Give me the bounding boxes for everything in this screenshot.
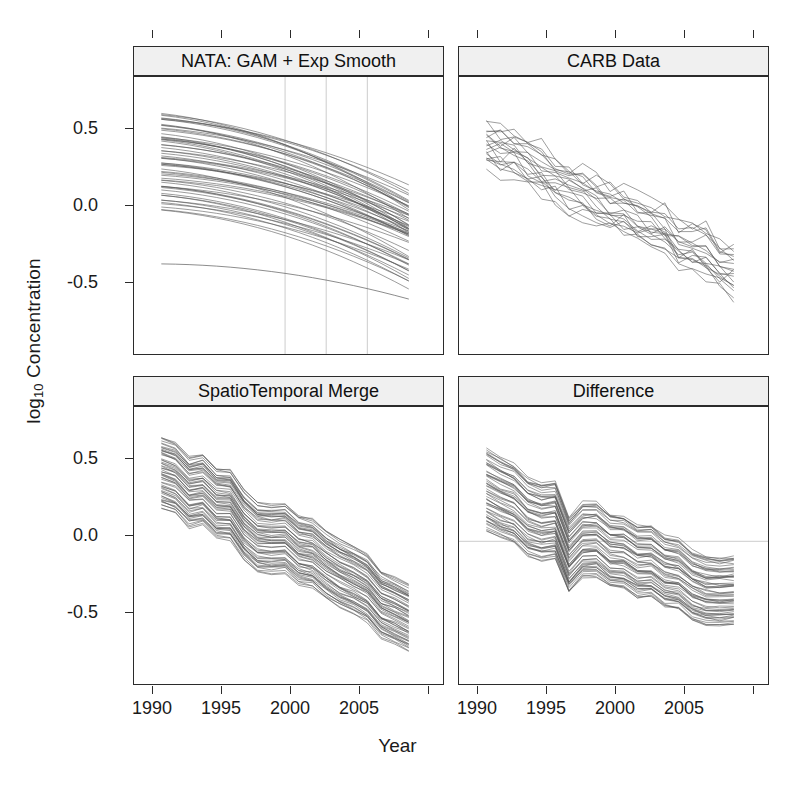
strip-label-merge: SpatioTemporal Merge (198, 381, 379, 402)
strip-label-carb: CARB Data (567, 51, 660, 72)
x-tick-mark-toprow-left-3 (359, 30, 360, 38)
y-tick-label-top-2: -0.5 (38, 272, 98, 293)
y-tick-label-bottom-2: -0.5 (38, 602, 98, 623)
x-tick-mark-bottomrow-right-4 (753, 686, 754, 694)
x-tick-mark-toprow-left-0 (152, 30, 153, 38)
panel-carb (458, 76, 769, 355)
x-tick-mark-bottomrow-left-4 (428, 686, 429, 694)
y-axis-title: log10 Concentration (23, 211, 45, 471)
strip-label-nata: NATA: GAM + Exp Smooth (181, 51, 396, 72)
strip-header-merge: SpatioTemporal Merge (133, 376, 444, 406)
x-tick-label-left-1: 1995 (186, 698, 256, 719)
x-axis-title: Year (0, 735, 795, 757)
panel-merge-plot-area (134, 407, 443, 684)
x-tick-label-right-3: 2005 (649, 698, 719, 719)
x-tick-mark-bottomrow-right-2 (615, 686, 616, 694)
panel-nata-plot-area (134, 77, 443, 354)
x-tick-mark-toprow-right-3 (684, 30, 685, 38)
x-tick-mark-toprow-left-2 (290, 30, 291, 38)
strip-header-nata: NATA: GAM + Exp Smooth (133, 46, 444, 76)
x-tick-mark-toprow-right-4 (753, 30, 754, 38)
x-tick-mark-bottomrow-left-3 (359, 686, 360, 694)
x-tick-mark-toprow-right-2 (615, 30, 616, 38)
y-tick-label-top-0: 0.5 (38, 118, 98, 139)
y-tick-mark-top-1 (125, 205, 133, 206)
x-tick-mark-bottomrow-right-0 (477, 686, 478, 694)
x-tick-label-right-1: 1995 (511, 698, 581, 719)
x-tick-mark-bottomrow-left-0 (152, 686, 153, 694)
x-tick-mark-bottomrow-right-3 (684, 686, 685, 694)
figure-panel-plot: log10 Concentration Year 0.5 0.0 -0.5 0.… (0, 0, 795, 791)
panel-difference (458, 406, 769, 685)
y-tick-mark-bottom-2 (125, 612, 133, 613)
x-tick-label-left-0: 1990 (117, 698, 187, 719)
y-tick-mark-bottom-0 (125, 458, 133, 459)
x-tick-label-left-3: 2005 (324, 698, 394, 719)
y-tick-label-top-1: 0.0 (38, 195, 98, 216)
x-tick-mark-toprow-right-1 (546, 30, 547, 38)
x-tick-label-left-2: 2000 (255, 698, 325, 719)
panel-carb-plot-area (459, 77, 768, 354)
x-tick-label-right-2: 2000 (580, 698, 650, 719)
x-tick-label-right-0: 1990 (442, 698, 512, 719)
panel-merge (133, 406, 444, 685)
x-tick-mark-bottomrow-left-2 (290, 686, 291, 694)
y-tick-mark-top-2 (125, 282, 133, 283)
x-tick-mark-bottomrow-left-1 (221, 686, 222, 694)
y-tick-label-bottom-0: 0.5 (38, 448, 98, 469)
x-tick-mark-toprow-right-0 (477, 30, 478, 38)
y-tick-mark-top-0 (125, 128, 133, 129)
y-tick-mark-bottom-1 (125, 535, 133, 536)
strip-label-difference: Difference (573, 381, 655, 402)
panel-nata (133, 76, 444, 355)
x-tick-mark-bottomrow-right-1 (546, 686, 547, 694)
panel-difference-plot-area (459, 407, 768, 684)
x-tick-mark-toprow-left-4 (428, 30, 429, 38)
y-axis-title-subscript: 10 (31, 383, 46, 398)
y-axis-title-main: log (23, 398, 44, 424)
strip-header-difference: Difference (458, 376, 769, 406)
x-tick-mark-toprow-left-1 (221, 30, 222, 38)
strip-header-carb: CARB Data (458, 46, 769, 76)
y-tick-label-bottom-1: 0.0 (38, 525, 98, 546)
